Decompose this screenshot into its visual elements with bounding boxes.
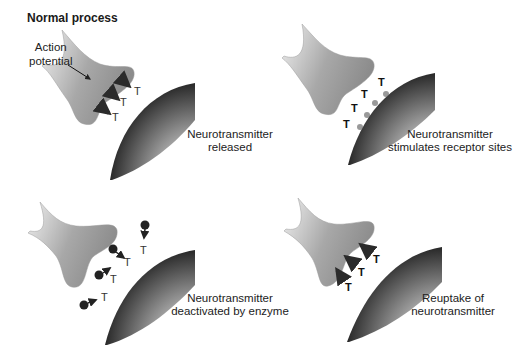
caption-line: Neurotransmitter bbox=[160, 128, 300, 141]
neurotransmitter-t: T bbox=[120, 96, 127, 108]
caption-reuptake: Reuptake of neurotransmitter bbox=[393, 292, 513, 318]
caption-line: released bbox=[160, 141, 300, 154]
neurotransmitter-t: T bbox=[110, 273, 117, 285]
caption-stimulates: Neurotransmitter stimulates receptor sit… bbox=[380, 128, 520, 154]
label-line: Action bbox=[29, 40, 72, 54]
caption-line: neurotransmitter bbox=[393, 305, 513, 318]
panel-deactivated: T T T T bbox=[28, 202, 195, 345]
neurotransmitter-t: T bbox=[358, 266, 365, 278]
neurotransmitter-t: T bbox=[134, 85, 141, 97]
presynaptic-terminal bbox=[282, 24, 374, 115]
receptor-site bbox=[357, 124, 363, 130]
reuptake-arrow bbox=[361, 245, 370, 252]
enzyme bbox=[80, 300, 97, 310]
diagram-title: Normal process bbox=[27, 11, 118, 25]
neurotransmitter-t: T bbox=[378, 76, 385, 88]
presynaptic-terminal bbox=[28, 202, 117, 287]
neurotransmitter-t: T bbox=[101, 291, 108, 303]
neurotransmitter-t: T bbox=[124, 256, 131, 268]
release-arrow bbox=[100, 106, 109, 113]
receptor-site bbox=[364, 112, 370, 118]
caption-line: Neurotransmitter bbox=[380, 128, 520, 141]
receptor-site bbox=[372, 100, 378, 106]
label-line: potential bbox=[29, 54, 72, 68]
caption-line: deactivated by enzyme bbox=[155, 305, 305, 318]
caption-line: Reuptake of bbox=[393, 292, 513, 305]
enzyme bbox=[109, 245, 125, 259]
caption-deactivated: Neurotransmitter deactivated by enzyme bbox=[155, 292, 305, 318]
neurotransmitter-t: T bbox=[361, 88, 368, 100]
neurotransmitter-t: T bbox=[373, 253, 380, 265]
caption-released: Neurotransmitter released bbox=[160, 128, 300, 154]
neurotransmitter-t: T bbox=[351, 102, 358, 114]
neurotransmitter-t: T bbox=[112, 111, 119, 123]
action-potential-label: Action potential bbox=[29, 40, 72, 68]
receptor-site bbox=[383, 91, 389, 97]
caption-line: stimulates receptor sites bbox=[380, 141, 520, 154]
enzyme bbox=[95, 268, 111, 280]
neurotransmitter-t: T bbox=[140, 244, 147, 256]
caption-line: Neurotransmitter bbox=[155, 292, 305, 305]
panel-reuptake: T T T bbox=[284, 198, 442, 342]
neurotransmitter-t: T bbox=[343, 118, 350, 130]
neurotransmitter-t: T bbox=[345, 281, 352, 293]
reuptake-arrow bbox=[346, 257, 355, 264]
enzyme bbox=[141, 221, 150, 239]
